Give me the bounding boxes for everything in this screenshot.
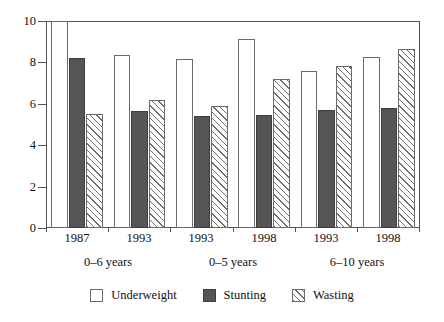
- y-axis-label-6: 6: [6, 98, 36, 110]
- x-axis-year-1998-0-5: 1998: [234, 231, 294, 245]
- bar-stunting-1993-4: [318, 110, 335, 228]
- bar-underweight-1998-3: [238, 39, 255, 228]
- bar-underweight-1993-4: [301, 71, 318, 228]
- legend-swatch-stunting-icon: [203, 289, 216, 302]
- x-axis-year-1998-6-10: 1998: [358, 231, 418, 245]
- legend-swatch-wasting-icon: [292, 289, 305, 302]
- legend-label-wasting: Wasting: [313, 288, 354, 302]
- legend-item-stunting: Stunting: [203, 288, 266, 302]
- bar-underweight-1993-1: [114, 55, 131, 228]
- legend-item-wasting: Wasting: [292, 288, 354, 302]
- x-axis-group-label-0-5-years: 0–5 years: [178, 255, 288, 269]
- x-axis-group-label-0-6-years: 0–6 years: [53, 255, 163, 269]
- y-axis-tick-0: [38, 228, 46, 229]
- bar-underweight-1993-2: [176, 59, 193, 228]
- x-axis-year-1987-0-6: 1987: [47, 231, 107, 245]
- bar-underweight-1998-5: [363, 57, 380, 228]
- x-axis-year-1993-6-10: 1993: [296, 231, 356, 245]
- bar-chart: 10 8 6 4 2 0 1987 1993 1993 1998 1993 19…: [0, 0, 444, 322]
- bar-stunting-1998-5: [381, 108, 398, 228]
- legend-label-underweight: Underweight: [111, 288, 176, 302]
- y-axis-label-0: 0: [6, 222, 36, 234]
- x-axis-separator: [419, 228, 420, 232]
- y-axis-tick-4: [38, 145, 46, 146]
- bar-wasting-1998-5: [398, 49, 415, 228]
- x-axis-year-1993-0-5: 1993: [171, 231, 231, 245]
- bar-stunting-1993-2: [194, 116, 211, 228]
- y-axis-label-4: 4: [6, 139, 36, 151]
- bar-wasting-1998-3: [273, 79, 290, 228]
- bar-wasting-1993-4: [336, 66, 353, 228]
- legend-label-stunting: Stunting: [224, 288, 266, 302]
- bar-wasting-1993-1: [149, 100, 166, 228]
- bar-stunting-1993-1: [131, 111, 148, 228]
- bar-wasting-1993-2: [211, 106, 228, 228]
- bar-underweight-1987-0: [51, 21, 68, 228]
- bar-wasting-1987-0: [86, 114, 103, 228]
- legend-item-underweight: Underweight: [90, 288, 176, 302]
- y-axis-label-8: 8: [6, 56, 36, 68]
- legend-swatch-underweight-icon: [90, 289, 103, 302]
- bar-stunting-1987-0: [69, 58, 86, 228]
- bars-layer: [46, 21, 420, 228]
- y-axis-tick-10: [38, 21, 46, 22]
- y-axis: 10 8 6 4 2 0: [0, 0, 36, 322]
- x-axis-year-1993-0-6: 1993: [109, 231, 169, 245]
- y-axis-tick-8: [38, 62, 46, 63]
- y-axis-label-10: 10: [6, 15, 36, 27]
- y-axis-tick-6: [38, 104, 46, 105]
- y-axis-label-2: 2: [6, 181, 36, 193]
- y-axis-tick-2: [38, 187, 46, 188]
- x-axis-group-label-6-10-years: 6–10 years: [302, 255, 412, 269]
- bar-stunting-1998-3: [256, 115, 273, 228]
- legend: Underweight Stunting Wasting: [0, 288, 444, 302]
